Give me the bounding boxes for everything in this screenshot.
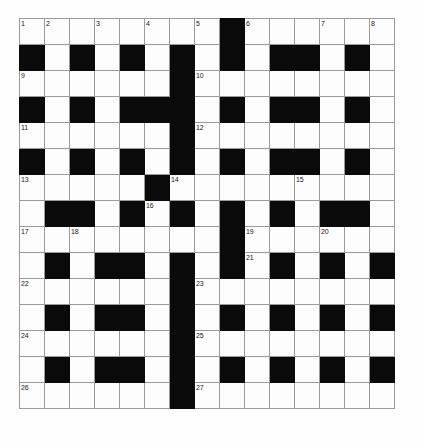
crossword-open-cell[interactable] [370,279,395,305]
crossword-open-cell[interactable] [245,45,270,71]
crossword-open-cell[interactable] [245,357,270,383]
crossword-open-cell[interactable] [245,149,270,175]
crossword-open-cell[interactable]: 11 [20,123,45,149]
crossword-open-cell[interactable] [70,357,95,383]
crossword-open-cell[interactable]: 15 [295,175,320,201]
crossword-open-cell[interactable] [45,175,70,201]
crossword-open-cell[interactable] [120,227,145,253]
crossword-open-cell[interactable] [370,71,395,97]
crossword-open-cell[interactable] [145,357,170,383]
crossword-open-cell[interactable] [245,279,270,305]
crossword-open-cell[interactable] [95,331,120,357]
crossword-open-cell[interactable] [370,175,395,201]
crossword-open-cell[interactable] [145,227,170,253]
crossword-open-cell[interactable] [370,149,395,175]
crossword-open-cell[interactable]: 13 [20,175,45,201]
crossword-open-cell[interactable] [245,305,270,331]
crossword-open-cell[interactable] [20,201,45,227]
crossword-open-cell[interactable] [145,253,170,279]
crossword-open-cell[interactable] [245,123,270,149]
crossword-open-cell[interactable] [195,45,220,71]
crossword-open-cell[interactable] [245,383,270,409]
crossword-open-cell[interactable] [195,175,220,201]
crossword-open-cell[interactable] [95,123,120,149]
crossword-open-cell[interactable] [220,383,245,409]
crossword-open-cell[interactable] [170,19,195,45]
crossword-open-cell[interactable] [295,253,320,279]
crossword-open-cell[interactable] [95,175,120,201]
crossword-open-cell[interactable] [45,149,70,175]
crossword-open-cell[interactable] [145,149,170,175]
crossword-open-cell[interactable] [370,45,395,71]
crossword-open-cell[interactable] [345,71,370,97]
crossword-open-cell[interactable] [220,331,245,357]
crossword-open-cell[interactable] [320,97,345,123]
crossword-open-cell[interactable] [345,19,370,45]
crossword-open-cell[interactable] [220,279,245,305]
crossword-open-cell[interactable] [295,331,320,357]
crossword-open-cell[interactable]: 2 [45,19,70,45]
crossword-open-cell[interactable]: 18 [70,227,95,253]
crossword-open-cell[interactable] [270,383,295,409]
crossword-open-cell[interactable] [195,357,220,383]
crossword-open-cell[interactable]: 12 [195,123,220,149]
crossword-open-cell[interactable] [270,19,295,45]
crossword-open-cell[interactable] [145,331,170,357]
crossword-open-cell[interactable]: 17 [20,227,45,253]
crossword-open-cell[interactable] [245,175,270,201]
crossword-open-cell[interactable] [145,123,170,149]
crossword-open-cell[interactable] [345,279,370,305]
crossword-open-cell[interactable] [295,305,320,331]
crossword-open-cell[interactable] [195,227,220,253]
crossword-open-cell[interactable] [295,201,320,227]
crossword-open-cell[interactable] [370,97,395,123]
crossword-open-cell[interactable] [245,71,270,97]
crossword-open-cell[interactable]: 3 [95,19,120,45]
crossword-open-cell[interactable] [45,71,70,97]
crossword-open-cell[interactable]: 8 [370,19,395,45]
crossword-open-cell[interactable] [345,357,370,383]
crossword-open-cell[interactable] [120,279,145,305]
crossword-open-cell[interactable]: 22 [20,279,45,305]
crossword-open-cell[interactable]: 21 [245,253,270,279]
crossword-open-cell[interactable] [95,383,120,409]
crossword-open-cell[interactable]: 26 [20,383,45,409]
crossword-open-cell[interactable]: 19 [245,227,270,253]
crossword-open-cell[interactable] [320,123,345,149]
crossword-open-cell[interactable]: 25 [195,331,220,357]
crossword-open-cell[interactable] [295,279,320,305]
crossword-open-cell[interactable] [145,305,170,331]
crossword-open-cell[interactable] [320,279,345,305]
crossword-open-cell[interactable] [45,383,70,409]
crossword-open-cell[interactable] [220,175,245,201]
crossword-open-cell[interactable] [220,71,245,97]
crossword-open-cell[interactable] [370,201,395,227]
crossword-open-cell[interactable] [120,123,145,149]
crossword-open-cell[interactable] [370,383,395,409]
crossword-open-cell[interactable] [95,71,120,97]
crossword-open-cell[interactable] [295,71,320,97]
crossword-open-cell[interactable] [120,19,145,45]
crossword-open-cell[interactable]: 10 [195,71,220,97]
crossword-open-cell[interactable] [195,201,220,227]
crossword-open-cell[interactable] [70,71,95,97]
crossword-open-cell[interactable] [345,253,370,279]
crossword-open-cell[interactable] [20,357,45,383]
crossword-open-cell[interactable] [95,279,120,305]
crossword-open-cell[interactable] [270,331,295,357]
crossword-open-cell[interactable] [120,331,145,357]
crossword-open-cell[interactable] [295,227,320,253]
crossword-open-cell[interactable]: 24 [20,331,45,357]
crossword-open-cell[interactable]: 27 [195,383,220,409]
crossword-open-cell[interactable] [70,175,95,201]
crossword-open-cell[interactable] [45,279,70,305]
crossword-open-cell[interactable] [295,19,320,45]
crossword-grid[interactable]: 1234567891011121314151617181920212223242… [19,18,395,409]
crossword-open-cell[interactable] [270,279,295,305]
crossword-open-cell[interactable] [320,45,345,71]
crossword-open-cell[interactable] [70,383,95,409]
crossword-open-cell[interactable] [145,279,170,305]
crossword-open-cell[interactable] [145,71,170,97]
crossword-open-cell[interactable] [20,305,45,331]
crossword-open-cell[interactable] [345,123,370,149]
